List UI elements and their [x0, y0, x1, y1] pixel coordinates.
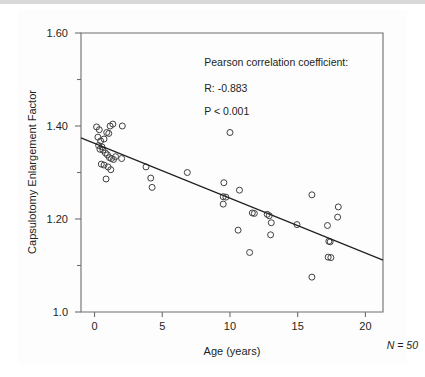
- x-axis-ticks: [95, 312, 366, 317]
- data-point: [220, 201, 226, 207]
- y-tick-label-1.20: 1.20: [47, 213, 68, 225]
- y-tick-label-1.40: 1.40: [47, 120, 68, 132]
- data-points: [94, 121, 342, 280]
- x-axis-tick-labels: 05101520: [91, 320, 371, 332]
- data-point: [268, 220, 274, 226]
- y-tick-label-1.60: 1.60: [47, 27, 68, 39]
- data-point: [324, 223, 330, 229]
- data-point: [247, 249, 253, 255]
- sample-size-note: N = 50: [387, 339, 418, 351]
- annotation-r-value: R: -0.883: [204, 82, 247, 94]
- annotation-p-value: P < 0.001: [204, 105, 249, 117]
- annotation-pearson-heading: Pearson correlation coefficient:: [204, 56, 348, 68]
- y-axis-title: Capsulotomy Enlargement Factor: [26, 90, 38, 254]
- data-point: [184, 170, 190, 176]
- data-point: [103, 176, 109, 182]
- data-point: [148, 175, 154, 181]
- data-point: [309, 274, 315, 280]
- regression-trend-line: [81, 138, 383, 260]
- y-axis-ticks: [75, 33, 81, 312]
- statistics-annotations: Pearson correlation coefficient:R: -0.88…: [204, 56, 348, 117]
- x-tick-label-15: 15: [292, 320, 304, 332]
- plot-frame: [81, 33, 383, 312]
- data-point: [119, 123, 125, 129]
- x-tick-label-0: 0: [91, 320, 97, 332]
- y-tick-label-1.0: 1.0: [53, 306, 68, 318]
- data-point: [221, 180, 227, 186]
- data-point: [106, 130, 112, 136]
- chart-canvas: 05101520 1.01.201.401.60 Pearson correla…: [0, 0, 425, 377]
- y-axis-tick-labels: 1.01.201.401.60: [47, 27, 68, 318]
- data-point: [149, 184, 155, 190]
- plot-frame-border: [81, 33, 383, 312]
- data-point: [335, 204, 341, 210]
- x-tick-label-20: 20: [359, 320, 371, 332]
- x-tick-label-5: 5: [159, 320, 165, 332]
- x-tick-label-10: 10: [224, 320, 236, 332]
- data-point: [309, 192, 315, 198]
- data-point: [119, 156, 125, 162]
- scatter-plot-figure: 05101520 1.01.201.401.60 Pearson correla…: [0, 0, 425, 377]
- data-point: [268, 232, 274, 238]
- data-point: [235, 227, 241, 233]
- data-point: [236, 187, 242, 193]
- x-axis-title: Age (years): [204, 345, 261, 357]
- data-point: [227, 130, 233, 136]
- data-point: [335, 214, 341, 220]
